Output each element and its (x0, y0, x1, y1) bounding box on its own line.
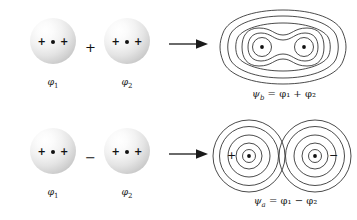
plus-sign-left: + (38, 37, 46, 47)
operator-minus-antibonding: − (85, 151, 96, 164)
plus-sign-right: + (60, 147, 68, 157)
nucleus-dot (51, 40, 55, 44)
orbital-label-phi1: φ1 (30, 186, 76, 200)
atomic-orbital-phi2-bonding: + + φ2 (104, 18, 150, 108)
nucleus-dot-right (302, 45, 306, 49)
row-antibonding: + + φ1 − + + φ2 (0, 110, 357, 220)
nucleus-dot (125, 40, 129, 44)
equation-rhs: = φ₁ − φ₂ (269, 195, 317, 206)
arrow-icon-bonding (168, 36, 210, 55)
lobe-sign-positive: + (227, 150, 236, 161)
psi-subscript: a (262, 201, 266, 209)
row-bonding: + + φ1 + + + φ2 (0, 0, 357, 110)
phi-subscript: 1 (54, 192, 58, 200)
atomic-orbital-phi2-antibonding: + + φ2 (104, 128, 150, 218)
sphere-charge-marks: + + (104, 147, 150, 157)
plus-sign-right: + (134, 37, 142, 47)
nucleus-dot-left (247, 154, 251, 158)
orbital-label-phi2: φ2 (104, 76, 150, 90)
plus-sign-right: + (60, 37, 68, 47)
phi-subscript: 2 (128, 192, 132, 200)
nucleus-dot (51, 150, 55, 154)
contour-plot-bonding (218, 8, 348, 90)
plus-sign-left: + (112, 37, 120, 47)
sphere-charge-marks: + + (30, 37, 76, 47)
lobe-sign-negative: − (329, 150, 338, 161)
psi-subscript: b (260, 94, 264, 102)
orbital-label-phi1: φ1 (30, 76, 76, 90)
plus-sign-left: + (112, 147, 120, 157)
figure-canvas: + + φ1 + + + φ2 (0, 0, 357, 220)
plus-sign-right: + (134, 147, 142, 157)
sphere-charge-marks: + + (104, 37, 150, 47)
nucleus-dot-right (313, 154, 317, 158)
equation-psi-bonding: ψb = φ₁ + φ₂ (243, 88, 325, 102)
psi-glyph: ψ (254, 195, 262, 206)
nucleus-dot-left (260, 45, 264, 49)
sphere-charge-marks: + + (30, 147, 76, 157)
phi-subscript: 1 (54, 82, 58, 90)
psi-glyph: ψ (252, 88, 260, 99)
plus-sign-left: + (38, 147, 46, 157)
atomic-orbital-phi1-bonding: + + φ1 (30, 18, 76, 108)
orbital-label-phi2: φ2 (104, 186, 150, 200)
phi-subscript: 2 (128, 82, 132, 90)
equation-psi-antibonding: ψa = φ₁ − φ₂ (243, 195, 328, 209)
nucleus-dot (125, 150, 129, 154)
operator-plus-bonding: + (85, 41, 96, 54)
equation-rhs: = φ₁ + φ₂ (268, 88, 316, 99)
arrow-icon-antibonding (168, 146, 210, 165)
atomic-orbital-phi1-antibonding: + + φ1 (30, 128, 76, 218)
